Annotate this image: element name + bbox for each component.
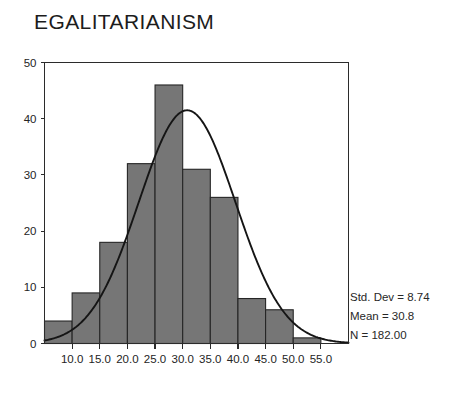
histogram-bar (238, 299, 266, 344)
histogram-bar (100, 242, 128, 343)
std-dev-stat: Std. Dev = 8.74 (350, 288, 452, 307)
y-axis-tick-label: 50 (24, 57, 37, 69)
y-axis-tick-label: 0 (30, 338, 36, 350)
histogram-bar (183, 169, 211, 343)
x-axis-tick-label: 30.0 (171, 353, 193, 365)
plot-area: 01020304050 10.015.020.025.030.035.040.0… (0, 0, 455, 409)
y-axis-tick-label: 10 (24, 281, 37, 293)
histogram-bar (210, 197, 238, 343)
x-axis-tick-label: 20.0 (116, 353, 138, 365)
x-axis-tick-label: 15.0 (89, 353, 111, 365)
x-axis-tick-label: 25.0 (144, 353, 166, 365)
n-stat: N = 182.00 (350, 326, 452, 345)
y-axis-tick-label: 40 (24, 113, 37, 125)
histogram-bar (266, 310, 294, 344)
y-axis-tick-labels: 01020304050 (24, 57, 37, 350)
x-axis-tick-label: 40.0 (227, 353, 249, 365)
x-axis-tick-label: 10.0 (61, 353, 83, 365)
x-axis-tick-label: 50.0 (282, 353, 304, 365)
histogram-bar (293, 338, 321, 344)
histogram-bar (155, 85, 183, 344)
y-axis-tick-label: 30 (24, 169, 37, 181)
y-axis-ticks (41, 63, 45, 344)
statistics-annotation: Std. Dev = 8.74 Mean = 30.8 N = 182.00 (350, 288, 452, 345)
histogram-bar (127, 164, 155, 344)
mean-stat: Mean = 30.8 (350, 307, 452, 326)
y-axis-tick-label: 20 (24, 225, 37, 237)
x-axis-tick-labels: 10.015.020.025.030.035.040.045.050.055.0 (61, 353, 332, 365)
x-axis-tick-label: 35.0 (199, 353, 221, 365)
x-axis-tick-label: 45.0 (254, 353, 276, 365)
x-axis-ticks (72, 344, 321, 349)
x-axis-tick-label: 55.0 (310, 353, 332, 365)
histogram-chart: EGALITARIANISM 01020304050 10.015.020.02… (0, 0, 455, 409)
